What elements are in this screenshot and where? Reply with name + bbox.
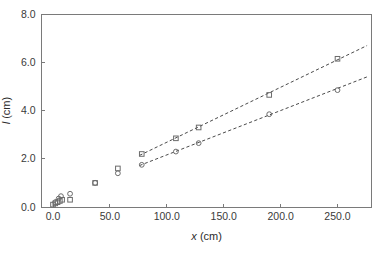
y-axis-title: l (cm) [0, 97, 12, 125]
x-tick-label: 150.0 [211, 210, 237, 222]
data-series [51, 56, 340, 206]
data-point-circle [68, 191, 73, 196]
x-tick-label: 100.0 [154, 210, 180, 222]
data-point-square [335, 56, 340, 61]
x-tick-label: 50.0 [100, 210, 121, 222]
y-tick-label: 6.0 [21, 56, 36, 68]
y-tick-label: 8.0 [21, 8, 36, 20]
x-tick-label: 200.0 [267, 210, 293, 222]
y-tick-label: 0.0 [21, 201, 36, 213]
fit-lines [139, 46, 367, 166]
data-point-circle [335, 88, 340, 93]
data-point-square [68, 197, 73, 202]
y-tick-label: 4.0 [21, 104, 36, 116]
figure-container: 0.050.0100.0150.0200.0250.0 x (cm) 0.02.… [0, 0, 382, 253]
y-tick-label: 2.0 [21, 152, 36, 164]
plot-frame [42, 14, 372, 207]
x-tick-label: 0.0 [46, 210, 61, 222]
scatter-plot: 0.050.0100.0150.0200.0250.0 x (cm) 0.02.… [0, 0, 382, 253]
data-point-square [116, 166, 121, 171]
series-circle-series [53, 88, 340, 205]
data-point-circle [174, 149, 179, 154]
data-point-circle [93, 181, 98, 186]
x-axis-title: x (cm) [190, 230, 222, 242]
y-axis: 0.02.04.06.08.0 l (cm) [0, 8, 45, 213]
x-tick-label: 250.0 [324, 210, 350, 222]
x-axis: 0.050.0100.0150.0200.0250.0 x (cm) [46, 204, 351, 243]
series-square-series [51, 56, 340, 206]
data-point-circle [115, 171, 120, 176]
